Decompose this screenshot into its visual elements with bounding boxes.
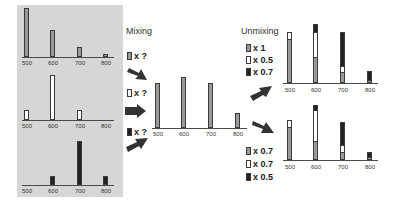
black-swatch bbox=[127, 128, 132, 136]
bar-500 bbox=[24, 110, 29, 120]
bar-600-white bbox=[313, 32, 318, 58]
legend-label: x 0.7 bbox=[253, 159, 273, 169]
bar-700-black bbox=[340, 122, 345, 146]
white-swatch bbox=[246, 56, 251, 64]
bar-600 bbox=[50, 176, 55, 185]
bar-500 bbox=[155, 83, 160, 128]
bar-800-gray bbox=[367, 157, 372, 160]
bar-600 bbox=[50, 75, 55, 120]
gray-swatch bbox=[246, 147, 251, 155]
tick-600: 600 bbox=[306, 164, 326, 170]
arrow-up-right-icon bbox=[250, 85, 274, 103]
tick-700: 700 bbox=[333, 164, 353, 170]
black-swatch bbox=[246, 68, 251, 76]
tick-800: 800 bbox=[360, 164, 380, 170]
unmixing-bottom-legend-black: x 0.5 bbox=[246, 172, 273, 182]
x-axis bbox=[22, 185, 114, 186]
tick-600: 600 bbox=[43, 188, 63, 194]
bar-800 bbox=[235, 113, 240, 128]
bar-700 bbox=[77, 47, 82, 57]
arrow-up-right-icon bbox=[126, 137, 150, 155]
tick-500: 500 bbox=[17, 60, 37, 66]
tick-700: 700 bbox=[70, 188, 90, 194]
white-swatch bbox=[246, 160, 251, 168]
bar-700-black bbox=[340, 32, 345, 67]
tick-700: 700 bbox=[70, 60, 90, 66]
legend-label: x ? bbox=[134, 127, 147, 137]
tick-700: 700 bbox=[70, 123, 90, 129]
bar-500-gray bbox=[287, 127, 292, 160]
bar-500 bbox=[24, 8, 29, 57]
x-axis bbox=[283, 160, 378, 161]
tick-500: 500 bbox=[280, 164, 300, 170]
tick-500: 500 bbox=[17, 188, 37, 194]
bar-700 bbox=[77, 110, 82, 120]
x-axis bbox=[283, 83, 378, 84]
tick-800: 800 bbox=[96, 123, 116, 129]
bar-700 bbox=[208, 83, 213, 128]
gray-swatch bbox=[127, 52, 132, 60]
x-axis bbox=[152, 128, 247, 129]
bar-700-gray bbox=[340, 72, 345, 83]
tick-600: 600 bbox=[43, 60, 63, 66]
tick-800: 800 bbox=[360, 87, 380, 93]
legend-label: x 1 bbox=[253, 43, 266, 53]
component-spectra-panel bbox=[17, 5, 123, 197]
arrow-right-icon bbox=[125, 104, 147, 118]
gray-swatch bbox=[246, 44, 251, 52]
bar-600-gray bbox=[313, 57, 318, 83]
unmixing-top-legend-white: x 0.5 bbox=[246, 55, 273, 65]
unmixing-top-legend-gray: x 1 bbox=[246, 43, 266, 53]
legend-label: x 0.7 bbox=[253, 146, 273, 156]
tick-500: 500 bbox=[17, 123, 37, 129]
legend-label: x ? bbox=[134, 88, 147, 98]
x-axis bbox=[22, 120, 114, 121]
mixing-title: Mixing bbox=[126, 26, 152, 36]
tick-800: 800 bbox=[96, 188, 116, 194]
tick-600: 600 bbox=[306, 87, 326, 93]
x-axis bbox=[22, 57, 114, 58]
tick-800: 800 bbox=[228, 131, 248, 137]
white-swatch bbox=[127, 89, 132, 97]
tick-600: 600 bbox=[174, 131, 194, 137]
tick-500: 500 bbox=[280, 87, 300, 93]
legend-label: x 0.5 bbox=[253, 172, 273, 182]
arrow-down-right-icon bbox=[127, 64, 149, 82]
mixing-legend-black: x ? bbox=[127, 127, 147, 137]
bar-700 bbox=[77, 141, 82, 185]
black-swatch bbox=[246, 173, 251, 181]
bar-800-gray bbox=[367, 80, 372, 83]
mixing-legend-white: x ? bbox=[127, 88, 147, 98]
bar-700-gray bbox=[340, 152, 345, 160]
tick-600: 600 bbox=[43, 123, 63, 129]
unmixing-top-legend-black: x 0.7 bbox=[246, 67, 273, 77]
mixing-legend-gray: x ? bbox=[127, 51, 147, 61]
bar-500-gray bbox=[287, 39, 292, 83]
arrow-down-right-icon bbox=[252, 117, 276, 135]
legend-label: x 0.5 bbox=[253, 55, 273, 65]
tick-500: 500 bbox=[148, 131, 168, 137]
bar-800 bbox=[103, 54, 108, 57]
legend-label: x 0.7 bbox=[253, 67, 273, 77]
legend-label: x ? bbox=[134, 51, 147, 61]
unmixing-bottom-legend-gray: x 0.7 bbox=[246, 146, 273, 156]
unmixing-bottom-legend-white: x 0.7 bbox=[246, 159, 273, 169]
tick-700: 700 bbox=[333, 87, 353, 93]
bar-600 bbox=[181, 77, 186, 128]
tick-700: 700 bbox=[201, 131, 221, 137]
bar-600 bbox=[50, 30, 55, 57]
unmixing-title: Unmixing bbox=[241, 26, 279, 36]
bar-600-gray bbox=[313, 141, 318, 160]
bar-600-white bbox=[313, 110, 318, 142]
bar-800 bbox=[103, 176, 108, 185]
tick-800: 800 bbox=[96, 60, 116, 66]
